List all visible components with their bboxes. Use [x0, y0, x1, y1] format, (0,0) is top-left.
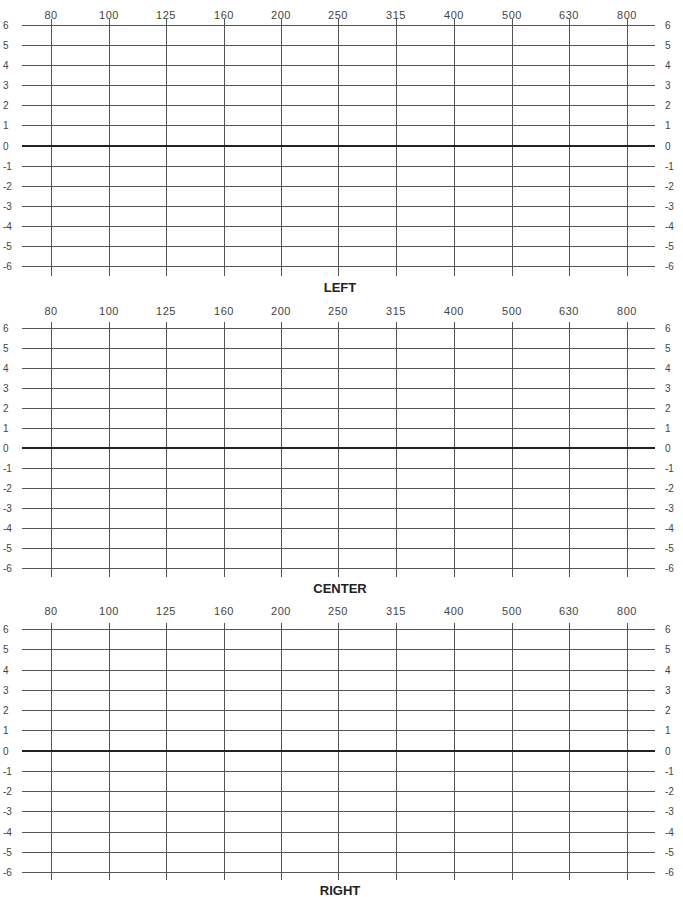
y-tick-label-left: 2: [3, 705, 9, 716]
y-tick-label-right: 4: [665, 665, 671, 676]
y-tick-label-left: -1: [3, 161, 12, 172]
horizontal-gridline: [22, 125, 655, 126]
horizontal-gridline: [22, 730, 655, 731]
y-tick-label-left: 6: [3, 20, 9, 31]
vertical-gridline: [109, 322, 110, 577]
y-tick-label-left: 0: [3, 746, 9, 757]
x-tick-label: 315: [386, 605, 406, 617]
y-tick-label-right: -1: [665, 463, 674, 474]
y-tick-label-left: 2: [3, 100, 9, 111]
x-tick-label: 630: [559, 605, 579, 617]
x-tick-label: 100: [99, 305, 119, 317]
horizontal-gridline: [22, 348, 655, 349]
y-tick-label-right: 0: [665, 443, 671, 454]
y-tick-label-left: 0: [3, 443, 9, 454]
y-tick-label-right: 3: [665, 685, 671, 696]
y-tick-label-left: -2: [3, 786, 12, 797]
y-tick-label-left: 4: [3, 665, 9, 676]
vertical-gridline: [109, 19, 110, 276]
horizontal-gridline: [22, 548, 655, 549]
x-tick-label: 80: [44, 305, 57, 317]
vertical-gridline: [166, 322, 167, 577]
y-tick-label-right: 5: [665, 40, 671, 51]
vertical-gridline: [569, 19, 570, 276]
y-tick-label-right: 2: [665, 403, 671, 414]
y-tick-label-right: -1: [665, 766, 674, 777]
y-tick-label-right: 5: [665, 644, 671, 655]
horizontal-gridline: [22, 206, 655, 207]
y-tick-label-right: 3: [665, 80, 671, 91]
y-tick-label-left: 3: [3, 685, 9, 696]
vertical-gridline: [396, 322, 397, 577]
y-tick-label-right: 4: [665, 60, 671, 71]
horizontal-gridline: [22, 328, 655, 329]
y-tick-label-right: -4: [665, 523, 674, 534]
x-tick-label: 400: [444, 305, 464, 317]
horizontal-gridline: [22, 811, 655, 812]
horizontal-gridline: [22, 832, 655, 833]
y-tick-label-right: 0: [665, 746, 671, 757]
horizontal-gridline: [22, 105, 655, 106]
horizontal-gridline: [22, 186, 655, 187]
y-tick-label-right: -1: [665, 161, 674, 172]
x-tick-label: 315: [386, 305, 406, 317]
vertical-gridline: [569, 322, 570, 577]
horizontal-gridline: [22, 629, 655, 630]
zero-line: [22, 750, 655, 752]
horizontal-gridline: [22, 368, 655, 369]
y-tick-label-right: -4: [665, 827, 674, 838]
vertical-gridline: [224, 322, 225, 577]
horizontal-gridline: [22, 528, 655, 529]
horizontal-gridline: [22, 791, 655, 792]
x-tick-label: 400: [444, 605, 464, 617]
y-tick-label-right: 4: [665, 363, 671, 374]
horizontal-gridline: [22, 488, 655, 489]
horizontal-gridline: [22, 670, 655, 671]
y-tick-label-left: 6: [3, 624, 9, 635]
y-tick-label-left: 5: [3, 40, 9, 51]
y-tick-label-left: -4: [3, 827, 12, 838]
horizontal-gridline: [22, 872, 655, 873]
y-tick-label-right: -5: [665, 241, 674, 252]
vertical-gridline: [627, 19, 628, 276]
horizontal-gridline: [22, 388, 655, 389]
y-tick-label-left: -5: [3, 543, 12, 554]
y-tick-label-right: 1: [665, 725, 671, 736]
y-tick-label-right: -3: [665, 201, 674, 212]
vertical-gridline: [166, 19, 167, 276]
x-tick-label: 250: [328, 605, 348, 617]
y-tick-label-left: 6: [3, 323, 9, 334]
y-tick-label-left: -3: [3, 503, 12, 514]
y-tick-label-right: -2: [665, 483, 674, 494]
y-tick-label-right: 3: [665, 383, 671, 394]
vertical-gridline: [338, 19, 339, 276]
y-tick-label-left: 1: [3, 423, 9, 434]
y-tick-label-right: 6: [665, 20, 671, 31]
x-tick-label: 200: [271, 305, 291, 317]
vertical-gridline: [281, 322, 282, 577]
x-tick-label: 160: [214, 305, 234, 317]
y-tick-label-left: 4: [3, 60, 9, 71]
y-tick-label-left: 1: [3, 725, 9, 736]
horizontal-gridline: [22, 45, 655, 46]
horizontal-gridline: [22, 710, 655, 711]
y-tick-label-left: 1: [3, 120, 9, 131]
horizontal-gridline: [22, 85, 655, 86]
x-tick-label: 250: [328, 305, 348, 317]
horizontal-gridline: [22, 649, 655, 650]
x-tick-label: 100: [99, 605, 119, 617]
horizontal-gridline: [22, 65, 655, 66]
horizontal-gridline: [22, 852, 655, 853]
vertical-gridline: [338, 322, 339, 577]
y-tick-label-left: -5: [3, 847, 12, 858]
y-tick-label-right: 2: [665, 100, 671, 111]
horizontal-gridline: [22, 690, 655, 691]
horizontal-gridline: [22, 226, 655, 227]
vertical-gridline: [627, 322, 628, 577]
zero-line: [22, 447, 655, 449]
y-tick-label-right: -2: [665, 786, 674, 797]
x-tick-label: 500: [502, 605, 522, 617]
vertical-gridline: [454, 322, 455, 577]
y-tick-label-left: -3: [3, 806, 12, 817]
x-tick-label: 125: [156, 305, 176, 317]
